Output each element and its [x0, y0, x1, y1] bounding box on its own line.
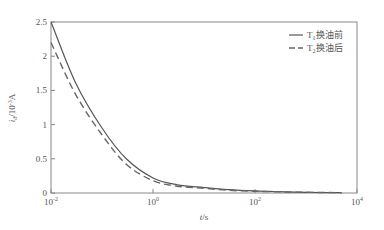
legend-label-t2: T2换油后 — [307, 42, 343, 54]
x-tick-label: 10-2 — [44, 196, 58, 207]
legend: T1换油前 T2换油后 — [289, 29, 343, 54]
x-axis-title: t/s — [200, 212, 209, 222]
legend-item-t1: T1换油前 — [289, 29, 343, 41]
x-tick-label: 104 — [351, 196, 363, 207]
y-tick-label: 2.5 — [36, 17, 48, 27]
x-tick-label: 100 — [147, 196, 159, 207]
y-tick-label: 0.5 — [36, 154, 48, 164]
x-tick-label: 102 — [249, 196, 261, 207]
y-tick-label: 2 — [43, 51, 48, 61]
legend-label-t1: T1换油前 — [307, 29, 343, 41]
legend-item-t2: T2换油后 — [289, 42, 343, 54]
y-tick-label: 1.5 — [36, 85, 48, 95]
y-axis-title: id/10-3A — [7, 93, 18, 122]
x-axis-ticks: 10-2100102104 — [44, 189, 363, 207]
chart: 00.511.522.5 10-2100102104 t/s id/10-3A … — [0, 0, 384, 230]
y-tick-label: 1 — [43, 120, 48, 130]
